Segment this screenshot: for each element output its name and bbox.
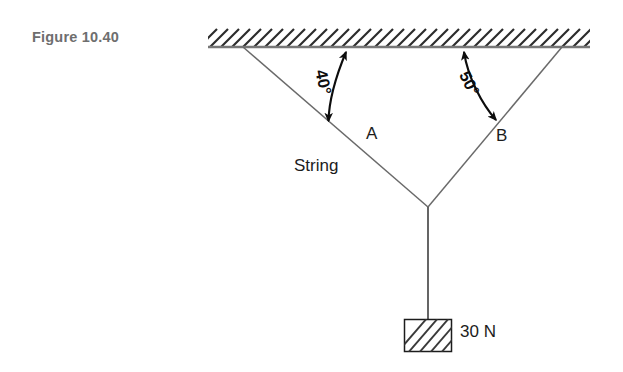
label-string-a: A [366,124,377,144]
label-weight-value: 30 N [460,322,496,342]
string-a-line [243,47,428,207]
label-string-generic: String [294,156,338,176]
string-b-line [428,47,562,207]
physics-diagram [0,0,623,372]
figure-canvas: Figure 10.40 [0,0,623,372]
ceiling-hatching [199,29,602,47]
label-string-b: B [496,126,507,146]
